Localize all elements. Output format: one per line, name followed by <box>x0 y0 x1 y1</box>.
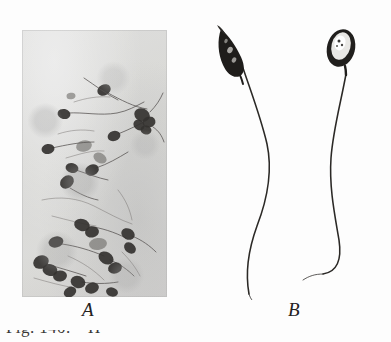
sperm-cluster-lower <box>31 217 156 297</box>
figure-caption: Fig. 140.—H <box>6 330 101 338</box>
sperm-cluster-upper <box>41 78 164 200</box>
panel-b-label: B <box>288 300 300 319</box>
spermatozoon-right <box>303 26 359 280</box>
panel-a <box>22 30 167 297</box>
panel-a-label: A <box>82 300 94 319</box>
sperm-head-left <box>217 25 244 84</box>
panel-b <box>205 22 385 300</box>
sperm-field-middle <box>42 190 132 226</box>
figure-plate: A B Fig. 140.—H <box>0 0 391 342</box>
sperm-head-right <box>323 26 359 75</box>
panel-b-drawing <box>205 22 385 300</box>
panel-a-spermatozoa-overlay <box>22 30 167 297</box>
panel-a-photograph <box>22 30 167 297</box>
sperm-knot-right <box>131 93 164 142</box>
caption-clip: Fig. 140.—H <box>0 330 391 342</box>
spermatozoon-left <box>217 25 269 300</box>
